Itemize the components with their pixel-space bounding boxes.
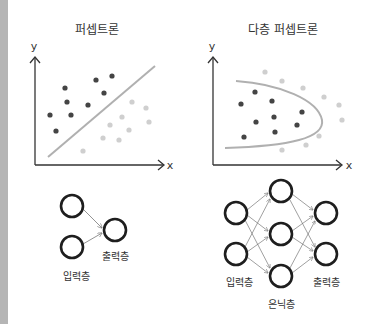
network-nodes [225,180,337,287]
hidden-node [270,223,292,245]
y-axis-label: y [31,40,38,53]
perceptron-title: 퍼셉트론 [75,23,119,37]
data-point [303,142,308,147]
axes [208,57,342,170]
data-point [62,85,67,90]
edge [292,216,313,231]
output-node [315,202,337,224]
data-point [85,102,90,107]
output-layer-label: 출력층 [102,251,129,262]
x-axis-label: x [167,159,174,172]
mlp-scatter-plot: y x [208,40,353,172]
data-point [129,99,134,104]
edge [292,194,313,210]
edge [290,221,315,268]
data-point [316,133,321,138]
data-point [336,102,341,107]
data-point [100,135,105,140]
input-layer-label: 입력층 [226,276,253,288]
network-edges [83,209,102,244]
input-layer-label: 입력층 [63,270,90,282]
mlp-panel: 다층 퍼셉트론 y x [208,23,353,310]
edge [83,209,102,228]
data-point [241,134,246,139]
data-point [126,127,131,132]
data-point [80,148,85,153]
output-node [315,243,337,265]
data-point [101,90,106,95]
output-node [104,219,126,241]
data-point [294,122,299,127]
input-node [225,202,247,224]
data-point [64,99,69,104]
data-point [321,94,326,99]
class-a-points [47,73,114,133]
perceptron-scatter-plot: y x [30,40,174,172]
diagram-canvas: 퍼셉트론 y x [0,0,373,324]
data-point [47,112,52,117]
data-point [339,117,344,122]
hidden-node [270,180,292,202]
class-a-points [238,89,304,139]
edge [83,233,102,244]
data-point [146,119,151,124]
input-node [61,195,83,217]
data-point [116,137,121,142]
y-axis-label: y [209,40,216,53]
data-point [269,98,274,103]
data-point [107,122,112,127]
data-point [252,89,257,94]
class-b-points [80,99,151,153]
data-point [262,69,267,74]
data-point [119,114,124,119]
data-point [53,128,58,133]
mlp-network: 입력층 은닉층 출력층 [225,180,340,310]
data-point [271,114,276,119]
data-point [109,73,114,78]
network-nodes [61,195,126,258]
perceptron-panel: 퍼셉트론 y x [30,23,174,282]
input-node [225,243,247,265]
data-point [238,101,243,106]
data-point [300,85,305,90]
data-point [299,109,304,114]
mlp-title: 다층 퍼셉트론 [248,23,318,37]
output-layer-label: 출력층 [313,277,340,288]
data-point [279,147,284,152]
edge [245,220,270,268]
data-point [68,112,73,117]
hidden-node [270,265,292,287]
data-point [93,77,98,82]
perceptron-network: 입력층 출력층 [61,195,129,282]
hidden-layer-label: 은닉층 [268,299,295,310]
data-point [272,129,277,134]
edge [292,257,313,273]
x-axis-label: x [346,159,353,172]
data-point [253,119,258,124]
data-point [143,105,148,110]
data-point [279,78,284,83]
linear-decision-boundary [48,66,155,157]
edge [247,193,268,210]
edge [245,199,270,247]
edge [247,257,268,273]
input-node [61,236,83,258]
edge [247,237,268,252]
